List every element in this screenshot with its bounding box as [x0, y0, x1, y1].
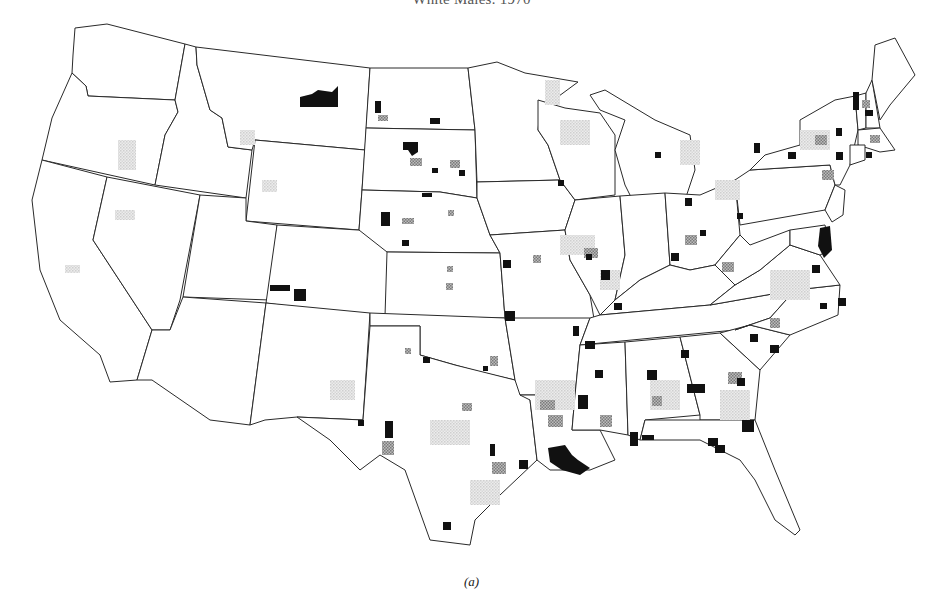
state-connecticut — [850, 145, 865, 165]
us-county-map — [0, 0, 943, 606]
state-washington — [72, 24, 185, 100]
state-pennsylvania — [735, 165, 835, 225]
state-kansas — [385, 252, 505, 318]
state-maine — [872, 38, 915, 120]
figure-caption: (a) — [0, 574, 943, 590]
state-florida — [640, 420, 800, 535]
state-iowa — [477, 180, 575, 235]
state-newmexico — [250, 303, 370, 425]
